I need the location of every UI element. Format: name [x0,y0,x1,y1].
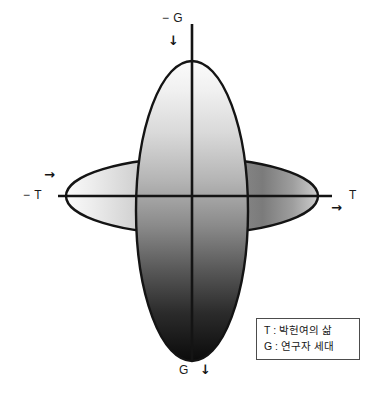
arrow-right-icon-left: → [44,168,55,181]
axis-label-negative-t: − T [23,189,42,201]
legend-row: T : 박헌여의 삶 [264,323,357,339]
diagram-canvas: − G G − T T ↓ ↓ → → T : 박헌여의 삶 G : 연구자 세… [0,0,377,405]
axis-label-positive-t: T [349,189,357,201]
legend-row: G : 연구자 세대 [264,339,357,355]
arrow-right-icon-right: → [331,201,342,214]
axis-label-negative-g: − G [162,12,183,24]
legend: T : 박헌여의 삶 G : 연구자 세대 [256,318,360,360]
arrow-down-icon-top: ↓ [168,34,179,47]
axis-label-positive-g: G [179,364,189,376]
arrow-down-icon-bottom: ↓ [200,363,211,376]
